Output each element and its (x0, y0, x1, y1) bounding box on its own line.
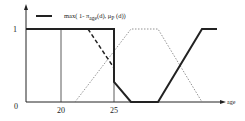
series-max-thick (26, 29, 217, 102)
y-tick-0: 0 (14, 102, 18, 111)
x-axis-arrow-icon (220, 100, 226, 104)
y-tick-1: 1 (13, 25, 17, 34)
x-tick-25: 25 (110, 106, 118, 115)
chart: 1 0 20 25 age max( 1- πage(d), μP (d)) (0, 0, 245, 121)
legend-label: max( 1- πage(d), μP (d)) (64, 12, 126, 21)
y-axis-arrow-icon (24, 4, 28, 10)
x-axis-label: age (227, 99, 236, 105)
series-mu-p-dotted (75, 29, 202, 102)
series-dashed (88, 29, 114, 68)
x-tick-20: 20 (57, 106, 65, 115)
